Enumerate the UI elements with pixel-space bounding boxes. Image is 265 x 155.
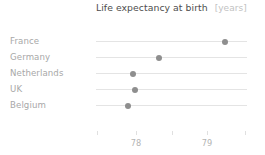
axis-tick [136,131,137,135]
category-label-germany: Germany [10,49,50,65]
category-label-belgium: Belgium [10,97,46,113]
data-point-netherlands[interactable] [130,71,136,77]
chart-row: Belgium [0,97,265,113]
data-point-uk[interactable] [132,87,138,93]
category-label-netherlands: Netherlands [10,65,64,81]
axis-tick [245,131,246,135]
connector-line [96,105,247,106]
axis-tick [207,131,208,135]
category-label-france: France [10,33,39,49]
axis-tick-label: 79 [202,138,213,148]
chart-row: Netherlands [0,65,265,81]
chart-container: Life expectancy at birth [years] FranceG… [0,0,265,155]
connector-line [96,73,247,74]
chart-row: France [0,33,265,49]
data-point-germany[interactable] [156,55,162,61]
connector-line [96,57,247,58]
axis-tick [172,131,173,135]
data-point-belgium[interactable] [125,103,131,109]
category-label-uk: UK [10,81,22,97]
x-axis: 7879 [0,131,265,155]
axis-tick [97,131,98,135]
data-point-france[interactable] [222,39,228,45]
chart-row: UK [0,81,265,97]
chart-row: Germany [0,49,265,65]
axis-tick-label: 78 [131,138,142,148]
connector-line [96,89,247,90]
